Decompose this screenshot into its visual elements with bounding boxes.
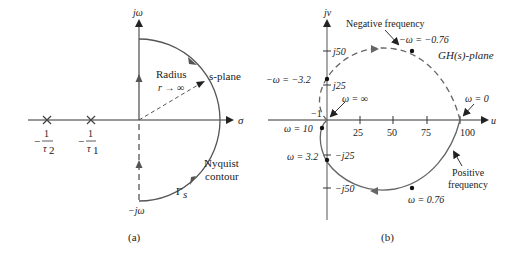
svg-text:1: 1 [93, 144, 99, 156]
caption-b: (b) [381, 231, 394, 244]
radius-label: Radius [156, 68, 187, 80]
svg-text:2: 2 [49, 144, 55, 156]
jomega-label: jω [131, 7, 143, 18]
svg-text:1: 1 [44, 128, 49, 139]
nyquist-diagram: − 1 τ 2 − 1 τ 1 jω −jω σ s-plane Radius … [0, 0, 515, 256]
w-inf-label: ω = ∞ [342, 93, 368, 104]
contour-arrow-up-dashed [136, 160, 143, 168]
tick-neg-j25: −j25 [335, 150, 355, 161]
jv-label: jv [322, 7, 332, 18]
w-inf-pointer [331, 102, 345, 116]
gh-plane-label: GH(s)-plane [438, 49, 494, 62]
neg-w-3-2-label: −ω = −3.2 [266, 74, 311, 85]
nyquist-label-1: Nyquist [204, 157, 239, 169]
nyquist-label-2: contour [205, 170, 239, 182]
contour-arrow-arc-top [188, 57, 197, 65]
neg-w-0-76-label: −ω = −0.76 [399, 34, 449, 45]
gamma-s-label: Γ [176, 185, 182, 197]
svg-text:−: − [78, 135, 84, 147]
neg-freq-pointer [385, 30, 398, 44]
point-w-3-2 [325, 158, 329, 162]
positive-label-2: frequency [448, 179, 488, 190]
w-zero-label: ω = 0 [465, 93, 489, 104]
radius-expression: r → ∞ [158, 82, 184, 93]
gamma-s-subscript: s [183, 188, 187, 200]
caption-a: (a) [128, 231, 141, 244]
svg-text:1: 1 [88, 128, 93, 139]
tick-j50: j50 [331, 46, 346, 57]
s-plane-label: s-plane [209, 70, 241, 82]
w-0-76-label: ω = 0.76 [408, 194, 444, 205]
minus-one-label: −1 [311, 108, 322, 119]
pole-label-tau1: − 1 τ 1 [78, 128, 99, 156]
tick-neg-j50: −j50 [335, 183, 355, 194]
positive-label-1: Positive [452, 167, 485, 178]
tick-75: 75 [421, 127, 431, 138]
panel-b: 25 50 75 100 j50 j25 −j25 −j50 −1 jv u G… [266, 7, 496, 244]
u-label: u [491, 115, 496, 126]
svg-text:τ: τ [43, 143, 47, 154]
radius-arrowhead [196, 81, 205, 88]
sigma-label: σ [238, 114, 244, 126]
point-neg-w-3-2 [325, 77, 329, 81]
point-neg-w-0-76 [410, 49, 414, 53]
pos-freq-pointer [454, 152, 462, 166]
w-10-label: ω = 10 [284, 123, 313, 134]
neg-jomega-label: −jω [128, 205, 145, 216]
contour-arrow-arc-bottom [190, 176, 196, 185]
svg-text:τ: τ [87, 143, 91, 154]
neg-freq-arrow [371, 45, 379, 53]
contour-arrow-up-solid [136, 74, 143, 82]
w-zero-pointer [464, 104, 474, 115]
pole-label-tau2: − 1 τ 2 [34, 128, 55, 156]
pos-freq-arrow [370, 187, 378, 195]
point-w-10 [320, 126, 324, 130]
svg-text:−: − [34, 135, 40, 147]
w-3-2-label: ω = 3.2 [287, 151, 318, 162]
tick-j25: j25 [331, 80, 346, 91]
negative-frequency-label: Negative frequency [346, 18, 425, 29]
point-w-0-76 [410, 186, 414, 190]
tick-50: 50 [387, 127, 397, 138]
panel-a: − 1 τ 2 − 1 τ 1 jω −jω σ s-plane Radius … [28, 7, 244, 244]
tick-100: 100 [460, 127, 475, 138]
tick-25: 25 [353, 127, 363, 138]
